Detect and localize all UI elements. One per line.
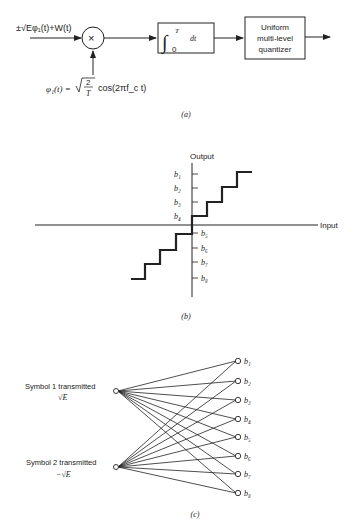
figure-canvas: ±√Eφ₁(t)+W(t) × φ₁(t) = 2 T cos(2πf_c t)… [0,0,354,524]
reference-signal-lhs: φ₁(t) = [46,84,71,94]
level-b7: b₇ [201,258,208,267]
reference-signal-denominator: T [86,89,91,98]
symbol2-node [114,465,119,470]
output-nodes [235,358,240,495]
output-node-b2 [235,378,240,383]
integrator-dt: dt [190,34,197,43]
level-b5: b₅ [201,229,208,238]
symbol1-node [114,389,119,394]
output-node-b6 [235,453,240,458]
output-node-b4 [235,416,240,421]
output-label-b2: b₂ [244,377,251,386]
level-b1: b₁ [174,170,181,179]
integrator-lower-limit: 0 [172,45,177,54]
output-node-b3 [235,397,240,402]
panel-c-transition-diagram: Symbol 1 transmitted √E Symbol 2 transmi… [25,357,251,519]
output-node-b7 [235,471,240,476]
integrator-upper-limit: T [175,27,180,35]
y-axis-label: Output [190,152,215,161]
output-label-b3: b₃ [244,396,251,405]
output-label-b1: b₁ [244,357,251,366]
symbol2-label: Symbol 2 transmitted [26,458,96,467]
output-label-b4: b₄ [244,415,251,424]
quantizer-line-1: Uniform [261,23,289,32]
quantizer-line-2: multi-level [257,34,293,43]
caption-c: (c) [191,510,200,519]
level-b3: b₃ [174,198,181,207]
panel-a-block-diagram: ±√Eφ₁(t)+W(t) × φ₁(t) = 2 T cos(2πf_c t)… [16,17,330,119]
level-b8: b₈ [201,274,208,283]
caption-b: (b) [181,312,191,321]
transition-lines [118,361,236,493]
output-label-b8: b₈ [244,489,251,498]
caption-a: (a) [181,110,191,119]
symbol1-label: Symbol 1 transmitted [25,382,95,391]
output-label-b6: b₆ [244,452,251,461]
level-b4: b₄ [174,212,181,221]
symbol2-value: −√E [56,470,71,479]
integral-icon: ∫ [160,31,169,55]
panel-b-quantizer-characteristic: Output Input b₁ b₂ b₃ b₄ b₅ b₆ b₇ b₈ (b) [35,152,339,321]
output-label-b5: b₅ [244,433,251,442]
output-node-b5 [235,434,240,439]
reference-signal-numerator: 2 [86,78,91,87]
output-label-b7: b₇ [244,470,251,479]
output-node-b1 [235,358,240,363]
input-signal-label: ±√Eφ₁(t)+W(t) [16,23,72,33]
level-b2: b₂ [174,184,181,193]
level-b6: b₆ [201,244,208,253]
output-node-b8 [235,490,240,495]
x-axis-label: Input [320,221,339,230]
reference-signal-rhs: cos(2πf_c t) [98,83,146,93]
symbol1-value: √E [58,393,67,402]
multiplier-icon: × [88,32,94,44]
quantizer-line-3: quantizer [259,45,292,54]
